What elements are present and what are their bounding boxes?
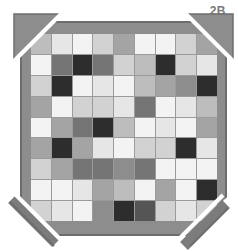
quilt-cell-r2c5 [114,55,134,75]
quilt-cell-r4c7 [156,97,176,117]
quilt-cell-r8c9 [197,180,217,200]
quilt-cell-r8c4 [93,180,113,200]
quilt-cell-r5c4 [93,118,113,138]
quilt-cell-r9c8 [176,201,196,221]
quilt-cell-r2c8 [176,55,196,75]
quilt-cell-r8c5 [114,180,134,200]
quilt-cell-r2c4 [93,55,113,75]
quilt-cell-r9c9 [197,201,217,221]
quilt-cell-r1c8 [176,34,196,54]
quilt-cell-r2c3 [73,55,93,75]
quilt-cell-r4c4 [93,97,113,117]
quilt-cell-r5c8 [176,118,196,138]
quilt-cell-r4c6 [135,97,155,117]
quilt-cell-r2c7 [156,55,176,75]
quilt-cell-r6c3 [73,138,93,158]
quilt-cell-r2c2 [52,55,72,75]
quilt-cell-r1c1 [31,34,51,54]
quilt-diagram [20,21,227,236]
quilt-cell-r1c5 [114,34,134,54]
quilt-cell-r3c4 [93,76,113,96]
quilt-cell-r9c3 [73,201,93,221]
quilt-cell-r3c8 [176,76,196,96]
quilt-cell-r5c7 [156,118,176,138]
quilt-cell-r7c2 [52,159,72,179]
quilt-cell-r9c2 [52,201,72,221]
quilt-cell-r8c3 [73,180,93,200]
quilt-cell-r6c8 [176,138,196,158]
quilt-cell-r4c1 [31,97,51,117]
quilt-cell-r2c1 [31,55,51,75]
quilt-cell-r6c5 [114,138,134,158]
quilt-cell-r3c9 [197,76,217,96]
quilt-cell-r5c5 [114,118,134,138]
quilt-cell-r6c6 [135,138,155,158]
quilt-grid [31,34,217,221]
quilt-cell-r3c3 [73,76,93,96]
figure-label: 2B [210,4,226,18]
quilt-cell-r9c1 [31,201,51,221]
quilt-cell-r9c5 [114,201,134,221]
quilt-cell-r7c7 [156,159,176,179]
quilt-cell-r8c8 [176,180,196,200]
page: { "figure_label": "2B", "colors": { "pag… [0,0,238,251]
quilt-cell-r8c1 [31,180,51,200]
quilt-cell-r5c1 [31,118,51,138]
quilt-cell-r8c7 [156,180,176,200]
quilt-cell-r6c4 [93,138,113,158]
quilt-cell-r6c9 [197,138,217,158]
quilt-cell-r7c4 [93,159,113,179]
quilt-cell-r4c9 [197,97,217,117]
quilt-cell-r7c3 [73,159,93,179]
quilt-cell-r7c6 [135,159,155,179]
quilt-cell-r1c9 [197,34,217,54]
quilt-cell-r4c3 [73,97,93,117]
quilt-cell-r3c2 [52,76,72,96]
quilt-cell-r3c1 [31,76,51,96]
quilt-cell-r1c6 [135,34,155,54]
quilt-cell-r3c5 [114,76,134,96]
quilt-cell-r7c5 [114,159,134,179]
quilt-cell-r6c7 [156,138,176,158]
quilt-cell-r6c1 [31,138,51,158]
quilt-cell-r1c2 [52,34,72,54]
quilt-cell-r3c7 [156,76,176,96]
quilt-cell-r1c7 [156,34,176,54]
quilt-cell-r5c9 [197,118,217,138]
quilt-cell-r4c5 [114,97,134,117]
quilt-cell-r2c6 [135,55,155,75]
quilt-cell-r5c6 [135,118,155,138]
quilt-cell-r6c2 [52,138,72,158]
quilt-cell-r5c2 [52,118,72,138]
quilt-cell-r4c2 [52,97,72,117]
quilt-cell-r7c8 [176,159,196,179]
quilt-cell-r8c2 [52,180,72,200]
quilt-cell-r9c7 [156,201,176,221]
quilt-cell-r9c4 [93,201,113,221]
quilt-cell-r3c6 [135,76,155,96]
quilt-cell-r1c3 [73,34,93,54]
quilt-cell-r8c6 [135,180,155,200]
quilt-cell-r7c9 [197,159,217,179]
quilt-cell-r1c4 [93,34,113,54]
quilt-cell-r5c3 [73,118,93,138]
quilt-cell-r2c9 [197,55,217,75]
quilt-cell-r7c1 [31,159,51,179]
quilt-cell-r4c8 [176,97,196,117]
quilt-cell-r9c6 [135,201,155,221]
